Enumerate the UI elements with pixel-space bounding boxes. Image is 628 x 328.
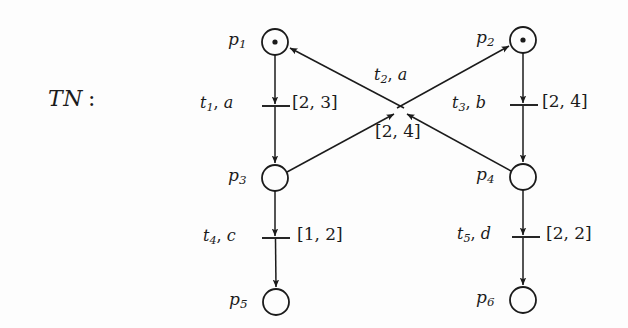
net-name-script: TN (48, 86, 83, 111)
place-label-p3: p3 (228, 167, 246, 187)
transition-action: b (476, 93, 486, 112)
place-index: 6 (487, 295, 495, 309)
transition-action: c (227, 226, 236, 245)
transition-label-t2: t2, a (374, 67, 407, 85)
place-index: 5 (240, 297, 248, 311)
place-letter: p (228, 29, 239, 49)
interval-label-t5: [2, 2] (546, 225, 592, 242)
place-letter: p (476, 164, 487, 184)
place-p3 (262, 165, 288, 191)
place-index: 1 (239, 37, 247, 51)
place-p6 (510, 287, 536, 313)
place-letter: p (476, 27, 487, 47)
transition-action: d (481, 224, 491, 243)
transition-index: 3 (458, 101, 465, 114)
transition-action: a (224, 93, 234, 112)
place-p2 (510, 27, 536, 53)
transition-label-t3: t3, b (452, 95, 486, 113)
transition-index: 1 (206, 101, 213, 114)
place-index: 4 (487, 172, 495, 186)
interval-label-t2: [2, 4] (375, 123, 421, 140)
transition-label-t4: t4, c (203, 228, 236, 246)
transition-label-t1: t1, a (200, 95, 233, 113)
place-letter: p (476, 287, 487, 307)
net-name-colon: : (88, 86, 96, 111)
place-letter: p (229, 289, 240, 309)
place-p1 (262, 29, 288, 55)
place-label-p2: p2 (476, 29, 494, 49)
transition-index: 5 (463, 232, 470, 245)
transition-label-t5: t5, d (457, 226, 491, 244)
arc-p4-t2 (407, 114, 511, 171)
place-label-p1: p1 (228, 31, 246, 51)
place-label-p5: p5 (229, 291, 247, 311)
place-index: 2 (487, 35, 495, 49)
place-index: 3 (239, 173, 247, 187)
net-name-label: TN: (48, 88, 96, 110)
petri-net-figure: TN: p1 p2 p3 p4 p5 p6 t1, a t2, a t3, b … (0, 0, 628, 328)
transition-action: a (398, 65, 408, 84)
token-dot (272, 39, 277, 44)
petri-net-graph (0, 0, 628, 328)
token-dot (520, 37, 525, 42)
place-label-p4: p4 (476, 166, 494, 186)
interval-label-t1: [2, 3] (292, 94, 338, 111)
place-letter: p (228, 165, 239, 185)
transition-index: 4 (209, 234, 216, 247)
place-p5 (263, 289, 289, 315)
interval-label-t3: [2, 4] (542, 93, 588, 110)
transition-index: 2 (380, 73, 387, 86)
arc-t4-p5 (276, 239, 277, 287)
interval-label-t4: [1, 2] (297, 226, 343, 243)
place-p4 (510, 164, 536, 190)
place-label-p6: p6 (476, 289, 494, 309)
